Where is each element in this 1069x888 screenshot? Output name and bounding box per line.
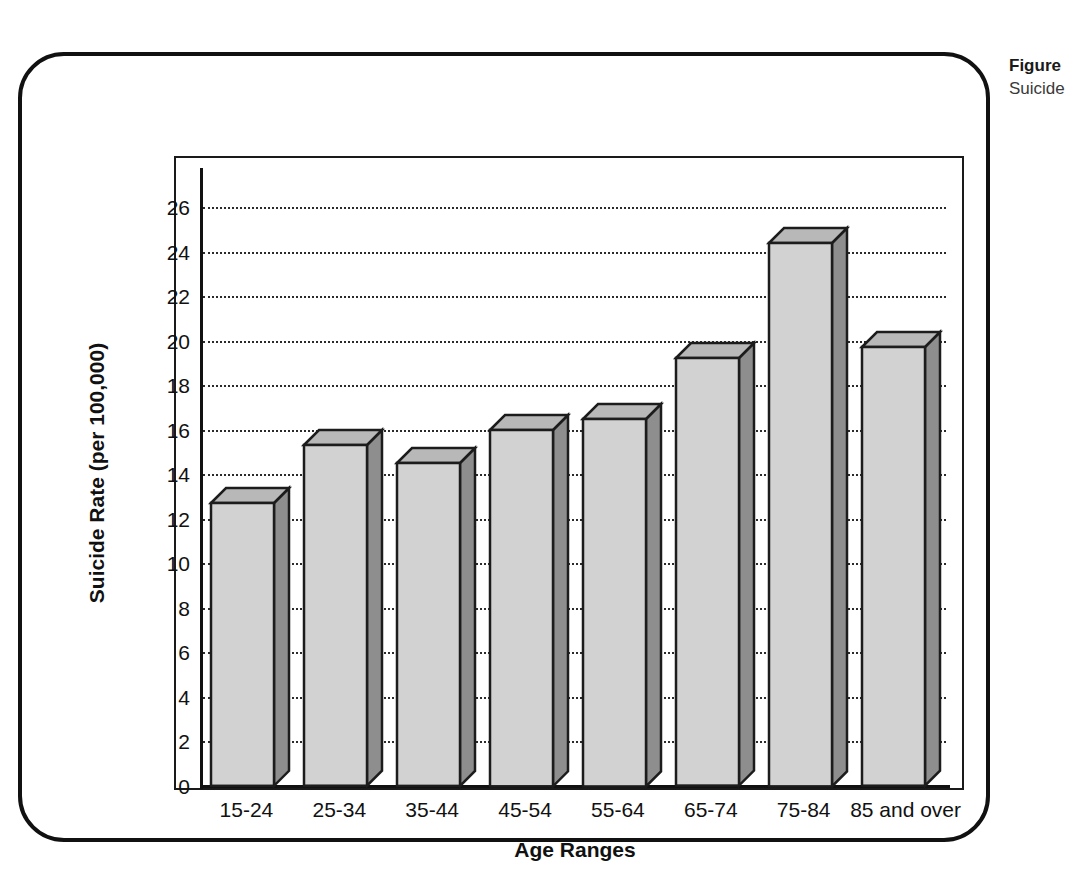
- x-tick-label: 75-84: [757, 798, 850, 822]
- figure-caption-title: Figure: [1009, 55, 1069, 78]
- y-axis-tick-labels: 02468101214161820222426: [126, 56, 190, 888]
- x-tick-label: 85 and over: [850, 798, 943, 822]
- bar: [303, 446, 381, 787]
- bar: [210, 504, 288, 787]
- x-tick-label: 15-24: [200, 798, 293, 822]
- bar-3d-shape: [210, 487, 290, 787]
- y-tick-label: 0: [130, 776, 190, 797]
- y-tick-label: 16: [130, 420, 190, 441]
- y-tick-label: 24: [130, 242, 190, 263]
- bar: [675, 359, 753, 787]
- bar: [396, 464, 474, 787]
- y-tick-label: 10: [130, 553, 190, 574]
- x-tick-label: 55-64: [572, 798, 665, 822]
- x-tick-label: 65-74: [664, 798, 757, 822]
- y-tick-label: 4: [130, 687, 190, 708]
- bar-3d-shape: [396, 447, 476, 787]
- y-axis-title: Suicide Rate (per 100,000): [85, 223, 109, 723]
- bar-3d-shape: [861, 331, 941, 787]
- y-tick-label: 12: [130, 509, 190, 530]
- figure-frame: 02468101214161820222426 Suicide Rate (pe…: [18, 52, 990, 842]
- y-tick-label: 14: [130, 464, 190, 485]
- x-tick-label: 45-54: [479, 798, 572, 822]
- y-tick-label: 26: [130, 197, 190, 218]
- bar-3d-shape: [582, 403, 662, 787]
- y-tick-label: 20: [130, 331, 190, 352]
- figure-caption-subtitle: Suicide: [1009, 78, 1069, 101]
- bar: [582, 420, 660, 787]
- bar: [861, 348, 939, 787]
- x-tick-label: 25-34: [293, 798, 386, 822]
- bar-3d-shape: [303, 429, 383, 787]
- bar-3d-shape: [768, 227, 848, 787]
- x-axis-tick-labels: 15-2425-3435-4445-5455-6465-7475-8485 an…: [200, 798, 950, 832]
- bar: [768, 244, 846, 787]
- y-tick-label: 18: [130, 375, 190, 396]
- bar-3d-shape: [489, 414, 569, 787]
- y-tick-label: 22: [130, 286, 190, 307]
- y-tick-label: 6: [130, 642, 190, 663]
- x-tick-label: 35-44: [386, 798, 479, 822]
- y-tick-label: 2: [130, 731, 190, 752]
- bar-3d-shape: [675, 342, 755, 787]
- plot-area: [200, 196, 946, 787]
- x-axis-title: Age Ranges: [200, 838, 950, 862]
- figure-caption: Figure Suicide: [1009, 55, 1069, 125]
- bar: [489, 431, 567, 787]
- y-tick-label: 8: [130, 598, 190, 619]
